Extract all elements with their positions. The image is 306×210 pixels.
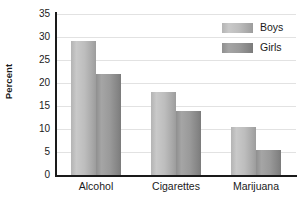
y-axis-line: [55, 12, 57, 177]
bar-alcohol-boys: [71, 41, 96, 175]
bar-alcohol-girls: [96, 74, 121, 175]
y-tick-label: 35: [6, 9, 50, 19]
y-tick-label: 25: [6, 55, 50, 65]
y-tick-label: 0: [6, 170, 50, 180]
y-tick-label: 10: [6, 124, 50, 134]
legend-item-boys[interactable]: Boys: [222, 19, 302, 36]
bar-marijuana-girls: [256, 150, 281, 175]
legend-item-girls[interactable]: Girls: [222, 39, 302, 56]
x-axis-line: [55, 175, 297, 177]
bar-chart: Percent 05101520253035 AlcoholCigarettes…: [0, 0, 306, 210]
bar-cigarettes-girls: [176, 111, 201, 175]
legend-swatch-boys-icon: [222, 23, 253, 33]
bar-cigarettes-boys: [151, 92, 176, 175]
bar-marijuana-boys: [231, 127, 256, 175]
gridline: [56, 14, 296, 15]
legend-label-boys: Boys: [260, 22, 283, 33]
legend: Boys Girls: [222, 19, 302, 59]
x-tick-label-marijuana: Marijuana: [233, 180, 279, 192]
y-axis-ticks: 05101520253035: [0, 14, 50, 175]
x-tick-label-alcohol: Alcohol: [79, 180, 113, 192]
y-tick-label: 20: [6, 78, 50, 88]
x-axis-labels: AlcoholCigarettesMarijuana: [56, 180, 296, 202]
legend-swatch-girls-icon: [222, 43, 253, 53]
y-tick-label: 30: [6, 32, 50, 42]
legend-label-girls: Girls: [260, 42, 282, 53]
x-tick-label-cigarettes: Cigarettes: [152, 180, 200, 192]
y-tick-label: 5: [6, 147, 50, 157]
y-tick-label: 15: [6, 101, 50, 111]
